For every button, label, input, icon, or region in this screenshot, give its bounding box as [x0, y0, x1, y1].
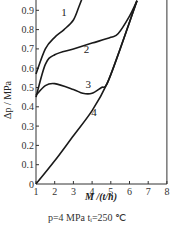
line-chart: 12345678 00.10.20.30.40.50.60.70.80.9 12… [0, 0, 174, 232]
curves [36, 0, 137, 184]
x-tick-label: 1 [34, 186, 39, 197]
plot-frame [36, 0, 167, 184]
curve-label-4: 4 [91, 106, 97, 118]
y-tick-label: 0 [29, 179, 34, 190]
y-tick-label: 0.4 [22, 101, 35, 112]
y-tick-label: 0.3 [22, 121, 35, 132]
y-tick-label: 0.6 [22, 63, 35, 74]
y-axis-title: Δp / MPa [2, 80, 13, 119]
x-tick-label: 7 [146, 186, 151, 197]
curve-labels: 1234 [61, 6, 97, 118]
curve-label-2: 2 [84, 43, 90, 55]
curve-label-3: 3 [86, 78, 92, 90]
y-tick-label: 0.5 [22, 82, 35, 93]
y-tick-label: 0.7 [22, 43, 35, 54]
chart-caption: p=4 MPa tᵢ=250 ℃ [0, 212, 174, 223]
x-tick-label: 3 [71, 186, 76, 197]
curve-1 [36, 0, 83, 74]
x-tick-label: 6 [127, 186, 132, 197]
x-tick-label: 2 [52, 186, 57, 197]
y-tick-label: 0.8 [22, 24, 35, 35]
curve-label-1: 1 [61, 6, 67, 18]
y-tick-label: 0.1 [22, 159, 35, 170]
y-tick-label: 0.2 [22, 140, 35, 151]
x-axis-title: M /(t/h) [84, 191, 117, 203]
y-tick-label: 0.9 [22, 5, 35, 16]
x-tick-label: 8 [164, 186, 169, 197]
